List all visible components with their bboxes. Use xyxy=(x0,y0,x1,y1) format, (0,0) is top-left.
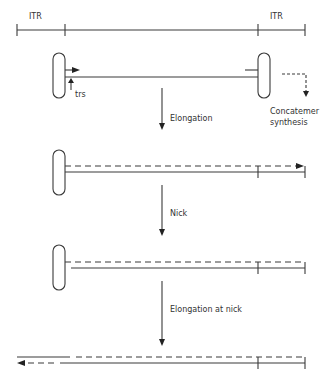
concatemer-arrow-icon xyxy=(303,91,309,97)
hairpin-right xyxy=(258,53,270,98)
new-strand-arrow-icon xyxy=(296,163,304,169)
stage-2-elongated xyxy=(53,150,305,195)
primer-arrow-icon xyxy=(72,67,80,73)
hairpin-left xyxy=(53,150,65,195)
down-arrow-icon xyxy=(159,229,165,236)
itr-label-right: ITR xyxy=(270,12,283,21)
concatemer-label-line1: Concatemer xyxy=(270,107,320,116)
down-arrow-icon xyxy=(159,339,165,346)
replication-diagram: ITR ITR trs Concatemer synthesis Elongat… xyxy=(0,0,324,380)
trs-arrow-icon xyxy=(68,78,74,83)
stage-4-displaced xyxy=(17,357,305,369)
step-arrow-elongation-at-nick: Elongation at nick xyxy=(159,281,242,346)
step-arrow-elongation: Elongation xyxy=(159,88,213,130)
leftward-arrow-icon xyxy=(17,360,25,366)
trs-label: trs xyxy=(75,90,86,99)
hairpin-left xyxy=(53,245,65,290)
stage-3-nicked xyxy=(53,245,305,290)
step-label-elongation: Elongation xyxy=(170,114,213,123)
down-arrow-icon xyxy=(159,123,165,130)
concatemer-label-line2: synthesis xyxy=(270,118,308,127)
itr-label-left: ITR xyxy=(29,12,42,21)
step-label-elongation-at-nick: Elongation at nick xyxy=(170,305,242,314)
itr-scale-bar: ITR ITR xyxy=(17,12,305,36)
step-arrow-nick: Nick xyxy=(159,185,188,236)
hairpin-left xyxy=(53,53,65,98)
step-label-nick: Nick xyxy=(170,209,188,218)
